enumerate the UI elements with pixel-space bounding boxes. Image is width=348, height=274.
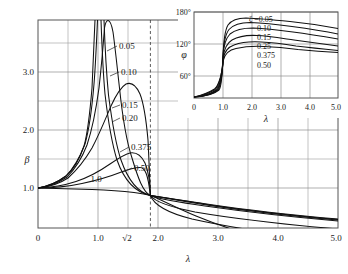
inset-curve-label-0.375: 0.375 [257,51,275,60]
main-xtick-4.0: 4.0 [272,233,284,243]
inset-curve-label-0.10: 0.10 [257,24,271,33]
inset-xtick-2.0: 2.0 [247,103,257,112]
main-ytick-1.0: 1.0 [23,183,35,193]
main-x-ticklabels: 0 1.0 2.0 3.0 4.0 5.0 √2 [36,233,342,243]
main-xtick-0: 0 [36,233,41,243]
inset-ytick-60: 60° [180,72,191,81]
main-xtick-3.0: 3.0 [212,233,224,243]
curve-label-0.375: 0.375 [131,142,152,152]
inset-xtick-4.0: 4.0 [305,103,315,112]
curve-label-0.15: 0.15 [122,100,138,110]
inset-ytick-180: 180° [176,8,191,17]
main-ytick-2.0: 2.0 [23,125,35,135]
curve-label-0.05: 0.05 [119,41,135,51]
inset-xtick-1.0: 1.0 [218,103,228,112]
inset-ytick-120: 120° [176,40,191,49]
main-y-ticklabels: 1.0 2.0 3.0 [23,67,35,193]
inset-x-axis-label: λ [263,113,269,124]
inset-curve-label-0.50: 0.50 [257,61,271,70]
main-xtick-1.0: 1.0 [92,233,104,243]
main-curve-labels: 0.05 0.10 0.15 0.20 0.375 0.50 1.0 [90,41,151,184]
curve-label-0.50: 0.50 [134,163,150,173]
main-xtick-sqrt2: √2 [122,233,131,243]
curve-label-1.0: 1.0 [90,174,102,184]
figure-svg: 0.05 0.10 0.15 0.20 0.375 0.50 1.0 1.0 2… [0,0,348,274]
inset-xtick-5.0: 5.0 [331,103,341,112]
inset-xtick-3.0: 3.0 [276,103,286,112]
main-xtick-2.0: 2.0 [152,233,164,243]
main-xtick-5.0: 5.0 [330,233,342,243]
inset-plot: ζ =0.05 0.10 0.15 0.25 0.375 0.50 180° 1… [176,4,342,124]
inset-y-axis-label: φ [181,49,187,60]
vibration-response-figure: 0.05 0.10 0.15 0.20 0.375 0.50 1.0 1.0 2… [0,0,348,274]
inset-curve-label-0.15: 0.15 [257,33,271,42]
inset-xtick-0: 0 [192,103,196,112]
curve-label-0.20: 0.20 [122,113,138,123]
inset-curve-label-0.05: ζ =0.05 [249,15,273,24]
main-x-axis-label: λ [185,253,191,264]
main-ytick-3.0: 3.0 [23,67,35,77]
main-y-axis-label: β [24,154,30,165]
inset-curve-label-0.25: 0.25 [257,42,271,51]
curve-label-0.10: 0.10 [121,67,137,77]
